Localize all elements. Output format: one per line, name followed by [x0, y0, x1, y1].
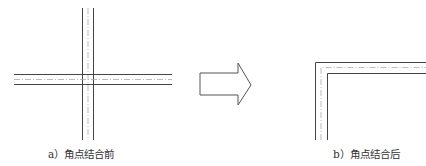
crossing-walls-before [14, 8, 172, 140]
right-arrow-icon [200, 63, 251, 105]
joined-corner-after [316, 63, 426, 141]
caption-before: a）角点结合前 [48, 146, 114, 161]
diagram-canvas [0, 0, 426, 166]
caption-after: b）角点结合后 [333, 146, 400, 161]
